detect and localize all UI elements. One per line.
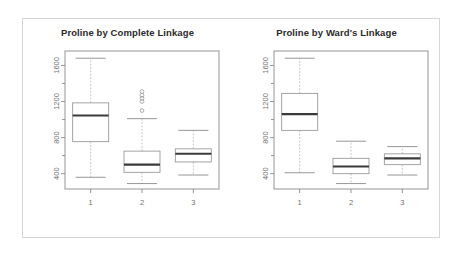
panel-title-complete-linkage: Proline by Complete Linkage bbox=[23, 27, 232, 38]
x-tick-label: 1 bbox=[89, 198, 93, 207]
y-tick-label: 400 bbox=[52, 167, 61, 180]
box-iqr bbox=[175, 149, 211, 162]
boxplot-complete-linkage: 40080012001600123 bbox=[23, 41, 232, 231]
x-tick-label: 1 bbox=[298, 198, 302, 207]
x-tick-label: 2 bbox=[140, 198, 144, 207]
x-tick-label: 3 bbox=[191, 198, 195, 207]
chart-panel-complete-linkage: Proline by Complete Linkage 400800120016… bbox=[23, 19, 232, 239]
box-iqr bbox=[282, 93, 318, 130]
box-iqr bbox=[73, 103, 109, 142]
box-iqr bbox=[124, 151, 160, 172]
x-tick-label: 2 bbox=[349, 198, 353, 207]
figure-frame: Proline by Complete Linkage 400800120016… bbox=[22, 18, 440, 238]
y-tick-label: 1200 bbox=[52, 93, 61, 110]
x-tick-label: 3 bbox=[400, 198, 404, 207]
y-tick-label: 1600 bbox=[52, 57, 61, 74]
y-tick-label: 400 bbox=[261, 167, 270, 180]
y-tick-label: 1200 bbox=[261, 93, 270, 110]
y-tick-label: 800 bbox=[261, 131, 270, 144]
screenshot-root: Proline by Complete Linkage 400800120016… bbox=[0, 0, 462, 257]
panel-title-wards-linkage: Proline by Ward's Linkage bbox=[232, 27, 441, 38]
y-tick-label: 800 bbox=[52, 131, 61, 144]
y-tick-label: 1600 bbox=[261, 57, 270, 74]
chart-panel-wards-linkage: Proline by Ward's Linkage 40080012001600… bbox=[232, 19, 441, 239]
boxplot-wards-linkage: 40080012001600123 bbox=[232, 41, 441, 231]
outlier-point bbox=[140, 109, 144, 113]
